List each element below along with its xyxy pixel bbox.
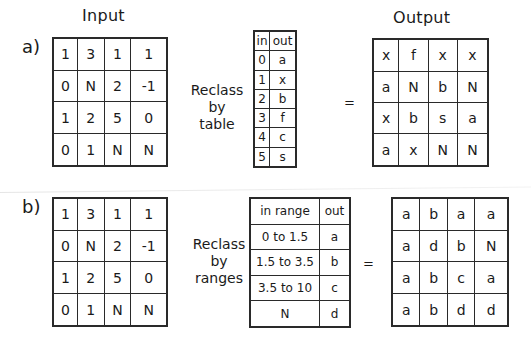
table-cell: x — [270, 70, 296, 89]
grid-cell: f — [399, 39, 428, 71]
grid-cell: 0 — [131, 102, 167, 134]
table-cell: 2 — [254, 89, 270, 108]
table-cell: 5 — [254, 147, 270, 167]
grid-cell: 5 — [104, 262, 131, 294]
range-table: in range out 0 to 1.5 a 1.5 to 3.5 b 3.5… — [249, 197, 351, 328]
grid-cell: b — [428, 71, 457, 102]
grid-cell: N — [77, 230, 104, 262]
grid-cell: N — [475, 230, 508, 262]
grid-cell: d — [420, 230, 447, 262]
header-out: out — [320, 198, 351, 224]
table-cell: 3.5 to 10 — [250, 275, 320, 300]
grid-cell: N — [457, 134, 488, 166]
table-cell: 4 — [254, 128, 270, 147]
grid-cell: 5 — [104, 102, 131, 134]
grid-row: x f x x — [373, 39, 488, 71]
table-cell: a — [320, 224, 351, 249]
table-header-row: in range out — [250, 198, 350, 224]
grid-cell: x — [457, 39, 488, 71]
table-row: 3.5 to 10 c — [250, 275, 350, 300]
reclass-by-table-label: Reclass by table — [190, 82, 244, 133]
grid-cell: b — [420, 262, 447, 294]
grid-cell: d — [475, 294, 508, 326]
table-cell: 3 — [254, 109, 270, 128]
table-cell: d — [320, 301, 351, 327]
grid-cell: a — [392, 198, 420, 230]
output-title: Output — [393, 8, 450, 27]
grid-cell: 2 — [104, 230, 131, 262]
grid-row: a x N N — [373, 134, 488, 166]
table-cell: c — [270, 128, 296, 147]
grid-cell: x — [373, 102, 399, 133]
grid-cell: N — [457, 71, 488, 102]
grid-cell: a — [392, 262, 420, 294]
grid-row: 0 1 N N — [53, 294, 167, 326]
grid-cell: N — [77, 70, 104, 102]
table-row: 3 f — [254, 109, 296, 128]
grid-row: 0 1 N N — [53, 134, 167, 166]
grid-row: 0 N 2 -1 — [53, 70, 167, 102]
table-row: 5 s — [254, 147, 296, 167]
op-line: Reclass — [190, 236, 248, 253]
output-grid-a: x f x x a N b N x b s a a x N N — [372, 38, 489, 167]
grid-cell: b — [420, 198, 447, 230]
grid-cell: 1 — [77, 294, 104, 326]
grid-cell: 0 — [53, 134, 77, 166]
grid-row: a d b N — [392, 230, 508, 262]
input-title: Input — [82, 6, 125, 25]
table-cell: f — [270, 109, 296, 128]
grid-cell: 0 — [53, 70, 77, 102]
table-cell: 1 — [254, 70, 270, 89]
table-cell: 0 — [254, 51, 270, 70]
grid-cell: a — [457, 102, 488, 133]
op-line: by — [190, 253, 248, 270]
table-row: 4 c — [254, 128, 296, 147]
grid-cell: 0 — [53, 294, 77, 326]
grid-cell: 1 — [53, 262, 77, 294]
table-cell: N — [250, 301, 320, 327]
grid-cell: a — [475, 198, 508, 230]
input-grid-b: 1 3 1 1 0 N 2 -1 1 2 5 0 0 1 N N — [52, 197, 168, 327]
grid-cell: 2 — [104, 70, 131, 102]
table-cell: c — [320, 275, 351, 300]
table-row: 1 x — [254, 70, 296, 89]
grid-cell: b — [399, 102, 428, 133]
grid-cell: 0 — [131, 262, 167, 294]
table-cell: b — [320, 250, 351, 275]
grid-row: 0 N 2 -1 — [53, 230, 167, 262]
header-in-range: in range — [250, 198, 320, 224]
input-grid-a: 1 3 1 1 0 N 2 -1 1 2 5 0 0 1 N N — [52, 37, 168, 167]
section-divider — [0, 186, 531, 193]
op-line: Reclass — [190, 82, 244, 99]
grid-row: a b c a — [392, 262, 508, 294]
grid-cell: 2 — [77, 102, 104, 134]
reclass-by-ranges-label: Reclass by ranges — [190, 236, 248, 287]
table-cell: b — [270, 89, 296, 108]
op-line: table — [190, 116, 244, 133]
lookup-table: in out 0 a 1 x 2 b 3 f 4 c 5 s — [253, 30, 297, 168]
op-line: ranges — [190, 270, 248, 287]
grid-cell: b — [447, 230, 474, 262]
table-cell: 1.5 to 3.5 — [250, 250, 320, 275]
table-cell: 0 to 1.5 — [250, 224, 320, 249]
op-line: by — [190, 99, 244, 116]
equals-sign-b: = — [363, 256, 374, 271]
table-row: 0 a — [254, 51, 296, 70]
grid-row: a N b N — [373, 71, 488, 102]
table-row: 2 b — [254, 89, 296, 108]
header-out: out — [270, 31, 296, 51]
grid-cell: x — [399, 134, 428, 166]
grid-cell: 3 — [77, 38, 104, 70]
grid-cell: N — [399, 71, 428, 102]
grid-cell: 1 — [104, 198, 131, 230]
table-row: 0 to 1.5 a — [250, 224, 350, 249]
grid-cell: 1 — [104, 38, 131, 70]
table-row: N d — [250, 301, 350, 327]
grid-cell: N — [131, 134, 167, 166]
equals-sign-a: = — [344, 95, 355, 110]
grid-row: a b d d — [392, 294, 508, 326]
grid-cell: 1 — [131, 198, 167, 230]
table-cell: s — [270, 147, 296, 167]
grid-cell: 1 — [77, 134, 104, 166]
table-row: 1.5 to 3.5 b — [250, 250, 350, 275]
